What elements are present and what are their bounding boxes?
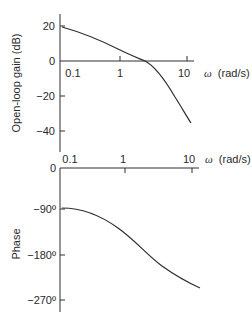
- phase-curve: [62, 208, 200, 288]
- phase-y-tick-label: −180º: [27, 249, 56, 261]
- gain-x-tick-label: 10: [178, 67, 190, 79]
- phase-x-tick-label: 10: [183, 153, 195, 165]
- gain-y-tick-label: −20: [36, 90, 55, 102]
- gain-y-tick-label: 0: [49, 55, 55, 67]
- gain-curve: [62, 27, 191, 123]
- omega-symbol: ω: [204, 67, 212, 79]
- gain-x-axis-unit: (rad/s): [218, 67, 250, 79]
- gain-y-axis-label: Open-loop gain (dB): [10, 33, 22, 132]
- phase-x-tick-label: 0.1: [62, 153, 77, 165]
- gain-x-tick-label: 1: [117, 67, 123, 79]
- phase-x-axis-label: ω (rad/s): [205, 153, 251, 165]
- phase-x-tick-label: 1: [120, 153, 126, 165]
- phase-y-tick-label: −90º: [33, 203, 56, 215]
- omega-symbol: ω: [205, 153, 213, 165]
- phase-y-axis-label: Phase: [10, 228, 22, 259]
- phase-x-axis-unit: (rad/s): [219, 153, 251, 165]
- gain-plot: 20 0 −20 −40 0.1 1 10 ω (rad/s) Open-loo…: [10, 14, 250, 152]
- phase-plot: 0.1 1 10 ω (rad/s) 0 −90º −180º −270º Ph…: [10, 153, 251, 312]
- gain-x-axis-label: ω (rad/s): [204, 67, 250, 79]
- phase-y-tick-label: −270º: [27, 294, 56, 306]
- bode-plot: 20 0 −20 −40 0.1 1 10 ω (rad/s) Open-loo…: [0, 0, 252, 319]
- phase-y-tick-label: 0: [50, 162, 56, 174]
- gain-x-tick-label: 0.1: [65, 67, 80, 79]
- gain-y-tick-label: −40: [36, 125, 55, 137]
- gain-y-tick-label: 20: [43, 20, 55, 32]
